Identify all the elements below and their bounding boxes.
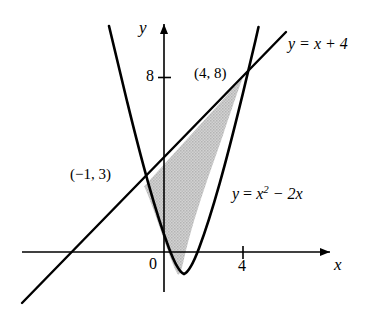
x-tick-label-4: 4	[238, 258, 246, 274]
parabola-eq-equals: =	[243, 185, 252, 202]
shaded-region	[144, 78, 243, 275]
x-axis-label: x	[334, 256, 342, 273]
parabola-equation-label: y = x2 − 2x	[232, 184, 303, 202]
point-label-right-intersection: (4, 8)	[194, 66, 227, 81]
y-tick-label-8: 8	[146, 68, 154, 84]
y-axis-label: y	[139, 19, 147, 36]
parabola-eq-tail: − 2x	[273, 185, 303, 202]
graph-figure: y x 8 4 0 (4, 8) (−1, 3) y = x + 4 y = x…	[0, 0, 367, 314]
origin-label: 0	[149, 256, 157, 272]
line-equation-label: y = x + 4	[288, 36, 348, 52]
y-axis-arrowhead	[160, 24, 168, 34]
x-axis-arrowhead	[320, 248, 330, 256]
point-label-left-intersection: (−1, 3)	[70, 167, 111, 182]
